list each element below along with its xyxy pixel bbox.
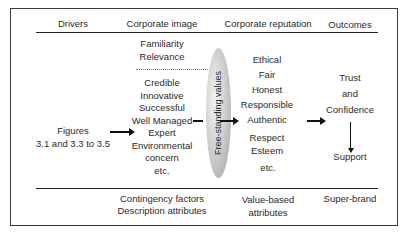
image-attr-1: Credible bbox=[132, 77, 193, 90]
outcome-support: Support bbox=[333, 151, 366, 162]
outcome-confidence: Confidence bbox=[326, 102, 374, 118]
outcome-trust: Trust bbox=[326, 70, 374, 86]
footer-contingency-factors: Contingency factors bbox=[117, 193, 206, 205]
drivers-column: Figures 3.1 and 3.3 to 3.5 bbox=[36, 124, 110, 150]
image-attr-4: Well Managed bbox=[132, 115, 193, 128]
reputation-authentic: Authentic bbox=[241, 112, 293, 127]
reputation-fair: Fair bbox=[241, 67, 293, 82]
corporate-reputation-group-1: Ethical Fair Honest Responsible Authenti… bbox=[241, 52, 293, 127]
arrow-confidence-to-support bbox=[350, 122, 351, 148]
image-attr-8: etc. bbox=[132, 165, 193, 178]
connector-image-to-filter bbox=[193, 120, 203, 122]
reputation-etc: etc. bbox=[260, 162, 275, 173]
image-attr-2: Innovative bbox=[132, 90, 193, 103]
footer-corporate-image: Contingency factors Description attribut… bbox=[117, 193, 206, 217]
reputation-respect: Respect bbox=[250, 131, 285, 144]
footer-attributes: attributes bbox=[242, 206, 295, 219]
image-divider bbox=[136, 69, 212, 70]
footer-super-brand: Super-brand bbox=[324, 193, 377, 204]
header-corporate-image: Corporate image bbox=[127, 18, 198, 29]
outcome-and: and bbox=[326, 86, 374, 102]
corporate-reputation-group-3: etc. bbox=[260, 162, 275, 173]
footer-description-attributes: Description attributes bbox=[117, 205, 206, 217]
reputation-responsible: Responsible bbox=[241, 97, 293, 112]
header-rule bbox=[36, 32, 378, 33]
corporate-image-upper: Familiarity Relevance bbox=[140, 37, 185, 63]
corporate-image-lower: Credible Innovative Successful Well Mana… bbox=[132, 77, 193, 177]
footer-corporate-reputation: Value-based attributes bbox=[242, 193, 295, 219]
arrow-filter-to-reputation bbox=[220, 120, 234, 122]
image-attr-6: Environmental bbox=[132, 140, 193, 153]
footer-outcomes: Super-brand bbox=[324, 193, 377, 204]
footer-value-based: Value-based bbox=[242, 193, 295, 206]
header-outcomes: Outcomes bbox=[328, 19, 371, 30]
drivers-line-1: Figures bbox=[36, 124, 110, 137]
reputation-honest: Honest bbox=[241, 82, 293, 97]
free-standing-values-label: Free-standing values bbox=[213, 71, 223, 155]
image-relevance: Relevance bbox=[140, 50, 185, 63]
reputation-esteem: Esteem bbox=[250, 144, 285, 157]
image-attr-5: Expert bbox=[132, 127, 193, 140]
image-attr-7: concern bbox=[132, 152, 193, 165]
drivers-line-2: 3.1 and 3.3 to 3.5 bbox=[36, 137, 110, 150]
image-familiarity: Familiarity bbox=[140, 37, 185, 50]
header-drivers: Drivers bbox=[58, 18, 88, 29]
corporate-reputation-group-2: Respect Esteem bbox=[250, 131, 285, 157]
footer-rule bbox=[36, 188, 378, 189]
outcomes-column: Trust and Confidence bbox=[326, 70, 374, 118]
arrow-drivers-to-image bbox=[110, 131, 130, 133]
arrow-reputation-to-outcomes bbox=[307, 120, 321, 122]
image-attr-3: Successful bbox=[132, 102, 193, 115]
header-corporate-reputation: Corporate reputation bbox=[224, 18, 311, 29]
reputation-ethical: Ethical bbox=[241, 52, 293, 67]
